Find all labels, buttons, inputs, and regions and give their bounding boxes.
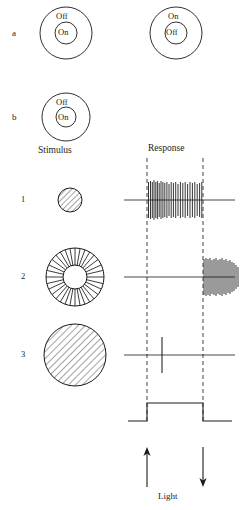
light-on-arrow-icon — [143, 447, 150, 487]
light-off-arrow-icon — [199, 447, 206, 487]
light-label: Light — [158, 491, 178, 501]
stimulus-icon-row-2 — [46, 244, 104, 310]
stimulus-and-response-traces — [0, 0, 250, 510]
stimulus-icon-row-1 — [58, 188, 82, 212]
light-pulse-trace — [128, 403, 232, 421]
figure-receptive-fields: a b Off On On Off Off On Stimulus Respon… — [0, 0, 250, 510]
stimulus-icon-row-3 — [44, 324, 106, 386]
